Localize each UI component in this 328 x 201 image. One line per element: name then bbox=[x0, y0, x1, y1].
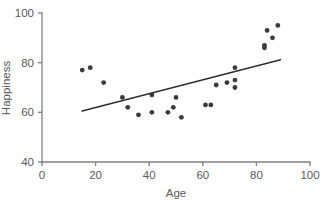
y-tick-label: 100 bbox=[15, 7, 34, 19]
data-point bbox=[265, 28, 270, 33]
data-point bbox=[233, 85, 238, 90]
data-point bbox=[275, 23, 280, 28]
x-tick-label: 80 bbox=[250, 169, 263, 181]
x-tick-label: 60 bbox=[196, 169, 209, 181]
y-axis-tick-labels: 406080100 bbox=[15, 7, 34, 168]
y-tick-label: 80 bbox=[21, 57, 34, 69]
data-point bbox=[174, 95, 179, 100]
x-tick-label: 0 bbox=[39, 169, 45, 181]
data-point bbox=[270, 35, 275, 40]
data-point bbox=[166, 110, 171, 115]
data-point bbox=[120, 95, 125, 100]
axis-tick-marks bbox=[38, 13, 310, 166]
data-point bbox=[179, 115, 184, 120]
data-point bbox=[225, 80, 230, 85]
x-axis-tick-labels: 020406080100 bbox=[39, 169, 320, 181]
data-point bbox=[149, 110, 154, 115]
data-point bbox=[88, 65, 93, 70]
y-tick-label: 40 bbox=[21, 156, 34, 168]
data-points-group bbox=[80, 23, 280, 120]
trend-line bbox=[82, 60, 280, 111]
data-point bbox=[80, 68, 85, 73]
data-point bbox=[171, 105, 176, 110]
y-axis-title: Happiness bbox=[0, 61, 12, 116]
data-point bbox=[214, 83, 219, 88]
data-point bbox=[233, 78, 238, 83]
x-tick-label: 40 bbox=[143, 169, 156, 181]
data-point bbox=[262, 43, 267, 48]
data-point bbox=[208, 102, 213, 107]
data-point bbox=[101, 80, 106, 85]
chart-canvas: 406080100 020406080100 Age Happiness bbox=[0, 0, 328, 201]
scatter-plot-figure: 406080100 020406080100 Age Happiness bbox=[0, 0, 328, 201]
data-point bbox=[203, 102, 208, 107]
x-tick-label: 20 bbox=[89, 169, 102, 181]
data-point bbox=[136, 112, 141, 117]
x-axis-title: Age bbox=[166, 187, 186, 199]
data-point bbox=[233, 65, 238, 70]
y-tick-label: 60 bbox=[21, 106, 34, 118]
data-point bbox=[125, 105, 130, 110]
x-tick-label: 100 bbox=[300, 169, 319, 181]
